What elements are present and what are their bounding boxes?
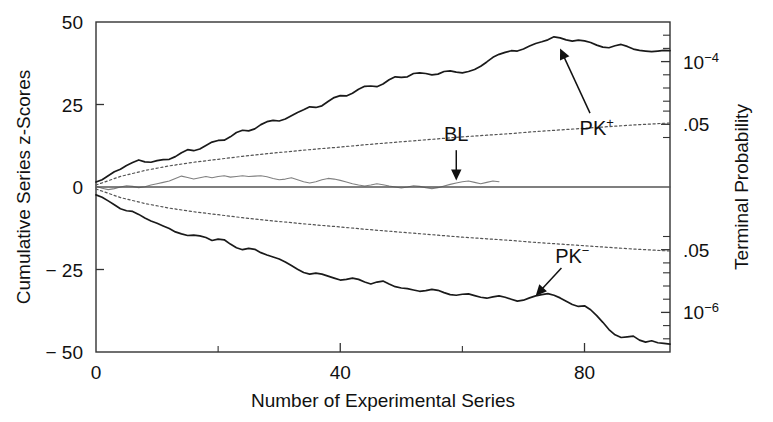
annotation-label-BL: BL	[444, 123, 468, 145]
series-annotations: PK+PK−BL	[444, 48, 614, 296]
cumulative-z-score-chart: 50250− 25− 50 10−4.05.0510−6 04080 PK+PK…	[0, 0, 773, 422]
annotation-label-PK: PK+	[580, 115, 614, 139]
x-tick-label-2: 80	[574, 362, 595, 383]
series-path-pk-	[96, 37, 670, 182]
y-tick-label-1: 25	[62, 95, 83, 116]
x-axis-title: Number of Experimental Series	[251, 390, 515, 411]
y2-tick-label-3: 10−6	[683, 300, 719, 323]
y-tick-label-0: 50	[62, 12, 83, 33]
y-tick-label-3: − 25	[45, 260, 83, 281]
data-series-layer	[96, 37, 670, 344]
annotation-arrow-line-0	[564, 57, 590, 114]
y-tick-label-2: 0	[72, 177, 83, 198]
x-axis-tick-labels: 04080	[91, 362, 595, 383]
series-path-p-05-lower-envelope	[96, 189, 670, 251]
y-tick-label-4: − 50	[45, 342, 83, 363]
figure-container: 50250− 25− 50 10−4.05.0510−6 04080 PK+PK…	[0, 0, 773, 422]
y-axis-right-title: Terminal Probability	[731, 104, 752, 270]
y2-tick-label-2: .05	[683, 240, 709, 261]
x-axis-ticks	[218, 343, 584, 352]
y2-tick-label-0: 10−4	[683, 50, 719, 73]
y-axis-right-tick-labels: 10−4.05.0510−6	[683, 50, 719, 324]
x-tick-label-0: 0	[91, 362, 102, 383]
annotation-label-PK: PK−	[555, 243, 589, 267]
x-tick-label-1: 40	[330, 362, 351, 383]
y-axis-left-tick-labels: 50250− 25− 50	[45, 12, 83, 363]
y-axis-left-title: Cumulative Series z-Scores	[13, 70, 34, 304]
annotation-arrowhead-2	[451, 169, 461, 180]
y2-tick-label-1: .05	[683, 114, 709, 135]
annotation-arrow-line-1	[542, 268, 562, 289]
series-path-pk-	[96, 195, 670, 344]
